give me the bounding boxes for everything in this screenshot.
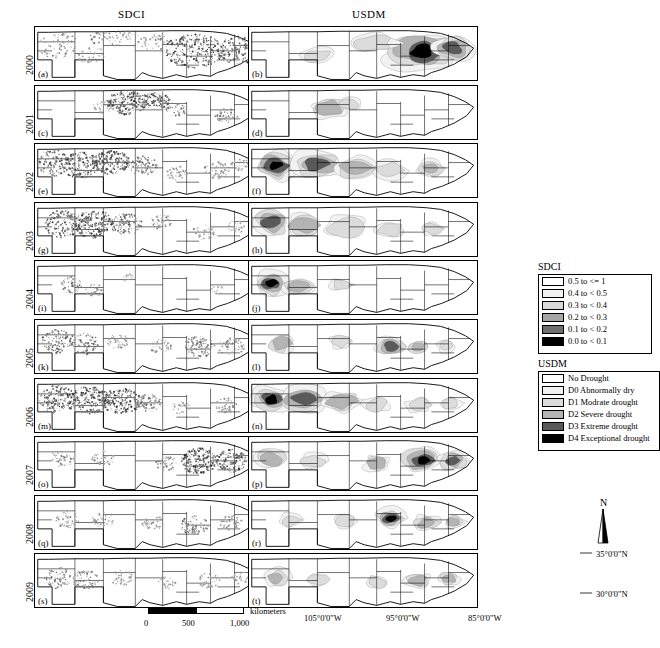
legend-label: 0.2 to < 0.3 bbox=[568, 313, 607, 322]
map-panel-usdm-2000: (b) bbox=[248, 26, 478, 81]
year-label-2006: 2006 bbox=[24, 407, 35, 427]
map-panel-sdci-2007: (o) bbox=[34, 436, 264, 491]
legend-label: 0.4 to < 0.5 bbox=[568, 289, 607, 298]
legend-item-sdci-3: 0.2 to < 0.3 bbox=[539, 311, 651, 323]
legend-swatch bbox=[542, 313, 564, 322]
panel-label: (b) bbox=[252, 69, 263, 79]
legend-swatch bbox=[542, 301, 564, 310]
legend-item-usdm-2: D1 Modrate drought bbox=[539, 396, 659, 408]
figure-root: SDCI USDM (a)(b)(c)(d)(e)(f)(g)(h)(i)(j)… bbox=[0, 0, 660, 648]
scale-tick-0: 0 bbox=[144, 618, 148, 628]
panel-label: (p) bbox=[252, 479, 263, 489]
year-label-2004: 2004 bbox=[24, 289, 35, 309]
legend-swatch bbox=[542, 434, 564, 443]
legend-usdm: No DroughtD0 Abnormally dryD1 Modrate dr… bbox=[538, 371, 660, 451]
legend-label: 0.3 to < 0.4 bbox=[568, 301, 607, 310]
map-panel-sdci-2003: (g) bbox=[34, 202, 264, 257]
lat-label-35: 35°0'0"N bbox=[596, 549, 628, 559]
legend-swatch bbox=[542, 410, 564, 419]
panel-label: (l) bbox=[252, 362, 261, 372]
legend-item-usdm-3: D2 Severe drought bbox=[539, 408, 659, 420]
legend-item-usdm-1: D0 Abnormally dry bbox=[539, 384, 659, 396]
lon-label-105: 105°0'0"W bbox=[304, 613, 342, 623]
panel-label: (i) bbox=[38, 303, 47, 313]
legend-swatch bbox=[542, 374, 564, 383]
legend-item-sdci-4: 0.1 to < 0.2 bbox=[539, 323, 651, 335]
year-label-2002: 2002 bbox=[24, 172, 35, 192]
legend-swatch bbox=[542, 277, 564, 286]
panel-label: (r) bbox=[252, 538, 261, 548]
year-label-2009: 2009 bbox=[24, 582, 35, 602]
lat-tick-marks bbox=[580, 546, 594, 598]
year-label-2007: 2007 bbox=[24, 465, 35, 485]
lat-label-30: 30°0'0"N bbox=[596, 589, 628, 599]
column-header-usdm: USDM bbox=[352, 8, 386, 20]
map-panel-usdm-2006: (n) bbox=[248, 378, 478, 433]
panel-label: (f) bbox=[252, 186, 261, 196]
legend-title-sdci: SDCI bbox=[538, 261, 561, 272]
map-panel-usdm-2007: (p) bbox=[248, 436, 478, 491]
lon-label-95: 95°0'0"W bbox=[386, 613, 419, 623]
map-panel-sdci-2005: (k) bbox=[34, 319, 264, 374]
legend-label: 0.1 to < 0.2 bbox=[568, 325, 607, 334]
map-panel-usdm-2008: (r) bbox=[248, 495, 478, 550]
scale-tick-1: 500 bbox=[182, 618, 195, 628]
legend-item-usdm-0: No Drought bbox=[539, 372, 659, 384]
legend-item-sdci-5: 0.0 to < 0.1 bbox=[539, 335, 651, 347]
scale-tick-2: 1,000 bbox=[230, 618, 249, 628]
panel-label: (d) bbox=[252, 128, 263, 138]
panel-label: (c) bbox=[38, 128, 48, 138]
legend-item-usdm-5: D4 Exceptional drought bbox=[539, 432, 659, 444]
legend-item-sdci-0: 0.5 to <= 1 bbox=[539, 275, 651, 287]
scale-segment-0 bbox=[148, 607, 196, 614]
map-panel-sdci-2004: (i) bbox=[34, 260, 264, 315]
legend-label: 0.0 to < 0.1 bbox=[568, 337, 607, 346]
panel-label: (e) bbox=[38, 186, 48, 196]
panel-label: (j) bbox=[252, 303, 261, 313]
legend-item-usdm-4: D3 Extreme drought bbox=[539, 420, 659, 432]
year-label-2005: 2005 bbox=[24, 348, 35, 368]
map-panel-usdm-2009: (t) bbox=[248, 553, 478, 608]
map-panel-usdm-2004: (j) bbox=[248, 260, 478, 315]
legend-label: D0 Abnormally dry bbox=[568, 386, 635, 395]
panel-label: (n) bbox=[252, 421, 263, 431]
legend-item-sdci-1: 0.4 to < 0.5 bbox=[539, 287, 651, 299]
legend-item-sdci-2: 0.3 to < 0.4 bbox=[539, 299, 651, 311]
map-panel-sdci-2002: (e) bbox=[34, 143, 264, 198]
map-panel-sdci-2000: (a) bbox=[34, 26, 264, 81]
legend-sdci: 0.5 to <= 10.4 to < 0.50.3 to < 0.40.2 t… bbox=[538, 274, 652, 354]
map-panel-usdm-2005: (l) bbox=[248, 319, 478, 374]
map-panel-usdm-2002: (f) bbox=[248, 143, 478, 198]
north-arrow-icon bbox=[592, 509, 618, 547]
legend-swatch bbox=[542, 337, 564, 346]
legend-swatch bbox=[542, 325, 564, 334]
map-panel-sdci-2008: (q) bbox=[34, 495, 264, 550]
year-label-2000: 2000 bbox=[24, 55, 35, 75]
panel-label: (h) bbox=[252, 245, 263, 255]
column-header-sdci: SDCI bbox=[118, 8, 145, 20]
legend-label: D3 Extreme drought bbox=[568, 422, 638, 431]
north-arrow-label: N bbox=[600, 497, 607, 508]
panel-label: (g) bbox=[38, 245, 49, 255]
legend-label: 0.5 to <= 1 bbox=[568, 277, 605, 286]
map-panel-usdm-2001: (d) bbox=[248, 85, 478, 140]
map-panel-sdci-2001: (c) bbox=[34, 85, 264, 140]
map-panel-sdci-2006: (m) bbox=[34, 378, 264, 433]
panel-label: (k) bbox=[38, 362, 49, 372]
panel-label: (q) bbox=[38, 538, 49, 548]
panel-label: (t) bbox=[252, 596, 261, 606]
scale-segment-1 bbox=[196, 607, 244, 614]
legend-swatch bbox=[542, 422, 564, 431]
legend-label: D2 Severe drought bbox=[568, 410, 632, 419]
map-panel-usdm-2003: (h) bbox=[248, 202, 478, 257]
legend-label: No Drought bbox=[568, 374, 609, 383]
panel-label: (s) bbox=[38, 596, 48, 606]
legend-swatch bbox=[542, 289, 564, 298]
year-label-2001: 2001 bbox=[24, 114, 35, 134]
legend-label: D1 Modrate drought bbox=[568, 398, 638, 407]
scale-unit-label: kilometers bbox=[250, 606, 286, 616]
legend-label: D4 Exceptional drought bbox=[568, 434, 650, 443]
lon-label-85: 85°0'0"W bbox=[468, 613, 501, 623]
year-label-2008: 2008 bbox=[24, 524, 35, 544]
legend-swatch bbox=[542, 398, 564, 407]
